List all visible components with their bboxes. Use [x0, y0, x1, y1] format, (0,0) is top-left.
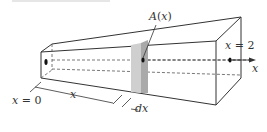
header-rule: [12, 0, 110, 2]
label-end: x = 2: [225, 39, 254, 52]
solid-diagram: A(x) x = 2 x x = 0 x dx: [0, 0, 267, 132]
label-area: A(x): [148, 10, 172, 23]
label-start: x = 0: [12, 94, 41, 107]
label-distance: x: [70, 88, 77, 101]
point-x0: [44, 59, 47, 65]
x-dimension: [30, 82, 138, 110]
cross-section-slab: [131, 40, 148, 93]
point-slab-center: [141, 57, 144, 62]
label-thickness: dx: [135, 102, 149, 115]
label-axis: x: [252, 62, 259, 75]
point-x2: [228, 57, 231, 62]
